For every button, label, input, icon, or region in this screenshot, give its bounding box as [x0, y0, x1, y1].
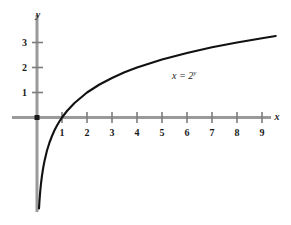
curve-equation-base: x = 2	[171, 70, 193, 81]
curve-equation-exponent: y	[192, 69, 197, 77]
x-tick-label-5: 5	[160, 127, 165, 138]
x-tick-label-1: 1	[60, 127, 65, 138]
y-tick-label-1: 1	[22, 87, 27, 98]
curve-equation-label: x = 2y	[171, 69, 197, 81]
x-tick-label-6: 6	[185, 127, 190, 138]
x-tick-label-4: 4	[135, 127, 140, 138]
x-tick-label-2: 2	[85, 127, 90, 138]
y-axis-label: y	[35, 9, 41, 20]
x-tick-label-7: 7	[210, 127, 215, 138]
figure-container: 1 2 3 4 5 6 7 8 9 1 2 3 y x x = 2y	[0, 0, 291, 225]
y-tick-label-2: 2	[22, 62, 27, 73]
x-tick-label-9: 9	[260, 127, 265, 138]
x-tick-label-8: 8	[235, 127, 240, 138]
y-tick-label-3: 3	[22, 37, 27, 48]
x-tick-label-3: 3	[110, 127, 115, 138]
origin-marker	[35, 115, 40, 120]
log-curve	[39, 36, 276, 209]
log-curve-chart: 1 2 3 4 5 6 7 8 9 1 2 3 y x x = 2y	[0, 0, 291, 225]
x-axis-label: x	[274, 111, 280, 122]
